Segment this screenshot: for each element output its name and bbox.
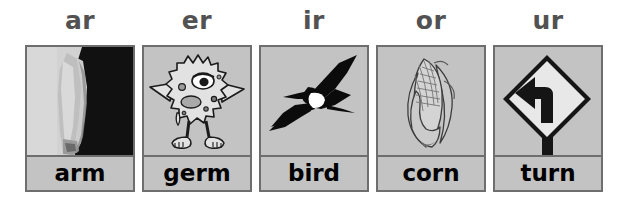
card-ar[interactable]: ar [22,0,138,215]
card-body-ur[interactable]: turn [493,45,603,192]
card-word-ar: arm [27,157,133,190]
card-body-ir[interactable]: bird [259,45,369,192]
card-header-er: er [139,6,255,36]
card-or[interactable]: or [373,0,489,215]
card-ir[interactable]: ir [256,0,372,215]
left-turn-sign-icon [495,47,601,157]
card-ur[interactable]: ur turn [490,0,606,215]
card-word-ir: bird [261,157,367,190]
card-header-or: or [373,6,489,36]
card-word-er: germ [144,157,250,190]
card-header-ir: ir [256,6,372,36]
card-er[interactable]: er [139,0,255,215]
card-body-or[interactable]: corn [376,45,486,192]
corn-cob-icon [378,47,484,157]
card-header-ar: ar [22,6,138,36]
germ-monster-icon [144,47,250,157]
card-word-ur: turn [495,157,601,190]
card-header-ur: ur [490,6,606,36]
card-body-ar[interactable]: arm [25,45,135,192]
card-board: ar [0,0,630,215]
bird-silhouette-icon [261,47,367,157]
arm-photo-icon [27,47,133,157]
card-body-er[interactable]: germ [142,45,252,192]
card-word-or: corn [378,157,484,190]
